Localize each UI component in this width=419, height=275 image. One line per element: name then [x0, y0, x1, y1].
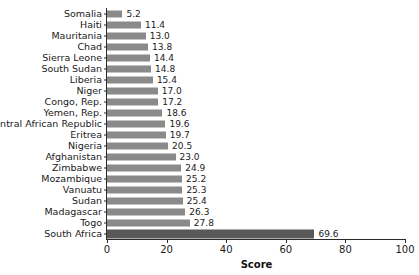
bar-value-label: 14.4	[154, 53, 174, 63]
x-axis-tick	[107, 239, 108, 243]
x-axis-title: Score	[107, 259, 406, 270]
x-axis-tick-label: 40	[220, 244, 233, 256]
category-label: Central African Republic	[0, 119, 102, 129]
bar-chart: Somalia5.2Haiti11.4Mauritania13.0Chad13.…	[0, 0, 419, 275]
bar-value-label: 14.8	[155, 64, 175, 74]
bar	[107, 186, 182, 193]
x-axis-tick-label: 0	[104, 244, 110, 256]
bar-row: Liberia15.4	[107, 74, 405, 85]
category-label: Mozambique	[41, 174, 102, 184]
bar-value-label: 25.3	[186, 185, 206, 195]
bar	[107, 120, 165, 127]
bar-row: Afghanistan23.0	[107, 151, 405, 162]
x-axis-tick	[345, 239, 346, 243]
bar-value-label: 24.9	[185, 163, 205, 173]
bar-value-label: 15.4	[157, 75, 177, 85]
category-label: South Sudan	[41, 64, 102, 74]
bar-row: South Africa69.6	[107, 228, 405, 239]
bar	[107, 21, 141, 28]
category-label: Niger	[76, 86, 102, 96]
bar	[107, 98, 158, 105]
bar-value-label: 11.4	[145, 20, 165, 30]
bar-value-label: 18.6	[166, 108, 186, 118]
bar-row: Sierra Leone14.4	[107, 52, 405, 63]
bar	[107, 164, 181, 171]
category-label: Sierra Leone	[42, 53, 102, 63]
category-label: Haiti	[80, 20, 102, 30]
category-label: Sudan	[72, 196, 102, 206]
bar-row: Central African Republic19.6	[107, 118, 405, 129]
bar-row: South Sudan14.8	[107, 63, 405, 74]
bar-value-label: 20.5	[172, 141, 192, 151]
bar-row: Congo, Rep.17.2	[107, 96, 405, 107]
bar-row: Eritrea19.7	[107, 129, 405, 140]
x-axis-tick-label: 100	[395, 244, 414, 256]
bar-value-label: 25.4	[187, 196, 207, 206]
bar	[107, 65, 151, 72]
bar-value-label: 13.8	[152, 42, 172, 52]
bar-value-label: 25.2	[186, 174, 206, 184]
category-label: Afghanistan	[45, 152, 102, 162]
x-axis-tick	[226, 239, 227, 243]
category-label: Togo	[80, 218, 102, 228]
bar	[107, 153, 176, 160]
bar-row: Sudan25.4	[107, 195, 405, 206]
category-label: Madagascar	[44, 207, 102, 217]
bar	[107, 87, 158, 94]
bar-value-label: 19.7	[170, 130, 190, 140]
bar-value-label: 17.2	[162, 97, 182, 107]
bar-row: Chad13.8	[107, 41, 405, 52]
bar-value-label: 13.0	[150, 31, 170, 41]
x-axis-line	[107, 239, 406, 240]
bar	[107, 54, 150, 61]
x-axis-tick	[405, 239, 406, 243]
category-label: Somalia	[64, 9, 102, 19]
chart-title	[0, 0, 419, 2]
bar-value-label: 27.8	[194, 218, 214, 228]
bar-value-label: 69.6	[318, 229, 338, 239]
x-axis-tick	[286, 239, 287, 243]
bar-row: Nigeria20.5	[107, 140, 405, 151]
category-label: Congo, Rep.	[45, 97, 102, 107]
category-label: Vanuatu	[63, 185, 102, 195]
bar-row: Vanuatu25.3	[107, 184, 405, 195]
bar-row: Mauritania13.0	[107, 30, 405, 41]
bar	[107, 109, 162, 116]
bar	[107, 76, 153, 83]
bar-row: Togo27.8	[107, 217, 405, 228]
x-axis-tick-label: 80	[339, 244, 352, 256]
bar	[107, 131, 166, 138]
x-axis-tick	[167, 239, 168, 243]
category-label: South Africa	[44, 229, 102, 239]
x-axis-tick-label: 20	[160, 244, 173, 256]
bar	[107, 142, 168, 149]
bar-row: Haiti11.4	[107, 19, 405, 30]
category-label: Liberia	[70, 75, 102, 85]
bar	[107, 175, 182, 182]
bar-row: Zimbabwe24.9	[107, 162, 405, 173]
bar	[107, 10, 122, 17]
category-label: Yemen, Rep.	[43, 108, 102, 118]
bar-row: Madagascar26.3	[107, 206, 405, 217]
bar	[107, 208, 185, 215]
bar-row: Mozambique25.2	[107, 173, 405, 184]
bar	[107, 32, 146, 39]
bar-row: Niger17.0	[107, 85, 405, 96]
bar	[107, 43, 148, 50]
bar	[107, 219, 190, 226]
bar-value-label: 19.6	[169, 119, 189, 129]
x-axis-tick-label: 60	[279, 244, 292, 256]
bar	[107, 229, 314, 238]
bar-value-label: 5.2	[126, 9, 140, 19]
bar-value-label: 17.0	[162, 86, 182, 96]
bar-value-label: 26.3	[189, 207, 209, 217]
category-label: Nigeria	[68, 141, 102, 151]
bar-row: Yemen, Rep.18.6	[107, 107, 405, 118]
bar-value-label: 23.0	[180, 152, 200, 162]
bar	[107, 197, 183, 204]
category-label: Zimbabwe	[52, 163, 102, 173]
category-label: Chad	[77, 42, 102, 52]
category-label: Mauritania	[51, 31, 102, 41]
bar-row: Somalia5.2	[107, 8, 405, 19]
category-label: Eritrea	[70, 130, 102, 140]
